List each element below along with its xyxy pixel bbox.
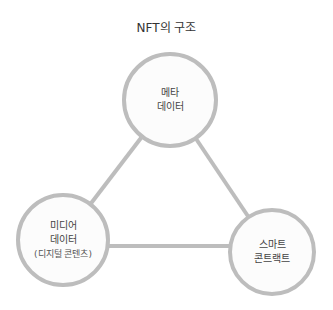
node-media-data: 미디어 데이터 (디지털 콘텐츠) — [16, 193, 110, 287]
node-label-line: 스마트 — [259, 238, 286, 252]
node-label-line: 데이터 — [50, 233, 77, 247]
node-label-line: 콘트랙트 — [254, 252, 290, 266]
node-meta-data: 메타 데이터 — [122, 52, 218, 148]
node-label-line: 메타 — [161, 86, 179, 100]
node-label-line: 데이터 — [157, 100, 184, 114]
node-smart-contract: 스마트 콘트랙트 — [228, 208, 316, 296]
node-label-line: 미디어 — [50, 219, 77, 233]
node-sublabel: (디지털 콘텐츠) — [34, 247, 92, 261]
